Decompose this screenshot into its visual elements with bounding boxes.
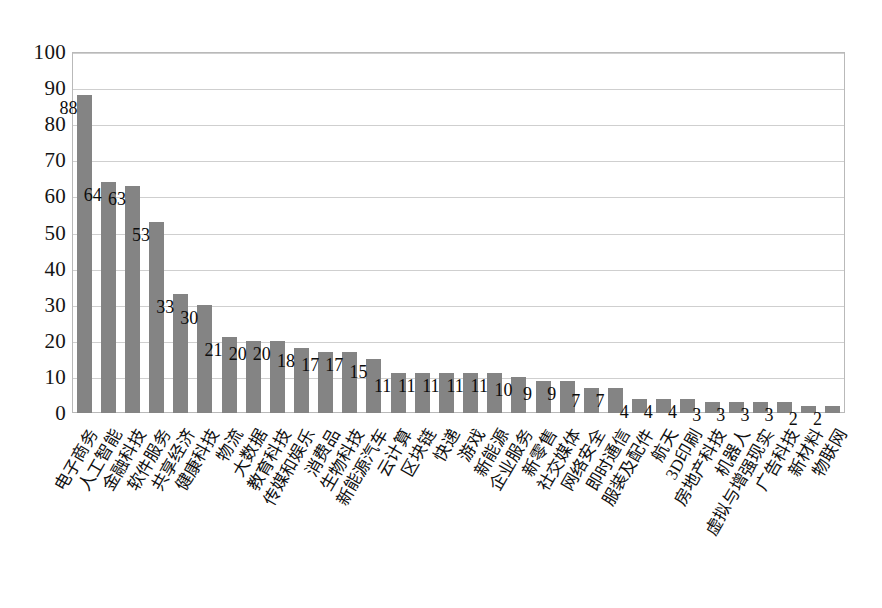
bar-value-label: 20 [227, 345, 249, 363]
y-axis-tick-label: 80 [6, 114, 66, 135]
bar-value-label: 64 [82, 186, 104, 204]
bar [77, 95, 92, 413]
bar-value-label: 18 [275, 352, 297, 370]
y-axis-tick-label: 60 [6, 186, 66, 207]
y-axis-tick-label: 0 [6, 403, 66, 424]
bar-value-label: 63 [106, 190, 128, 208]
category-label-text: 快递 [431, 426, 463, 464]
bar-chart: 0102030405060708090100 88646353333021202… [0, 0, 882, 608]
y-axis-tick-label: 10 [6, 367, 66, 388]
y-axis-tick-label: 90 [6, 78, 66, 99]
y-axis-tick-label: 100 [6, 42, 66, 63]
y-axis-tick-label: 30 [6, 295, 66, 316]
bar-value-label: 33 [154, 298, 176, 316]
category-axis: 电子商务人工智能金融科技软件服务共享经济健康科技物流大数据教育科技传媒和娱乐消费… [72, 413, 845, 608]
y-axis: 0102030405060708090100 [0, 0, 66, 608]
y-axis-tick-label: 70 [6, 150, 66, 171]
bars-layer: 8864635333302120201817171511111111111099… [72, 52, 845, 413]
y-axis-tick-label: 50 [6, 223, 66, 244]
bar-value-label: 53 [130, 226, 152, 244]
bar-value-label: 20 [251, 345, 273, 363]
bar-value-label: 30 [178, 309, 200, 327]
bar-value-label: 88 [58, 99, 80, 117]
y-axis-tick-label: 40 [6, 259, 66, 280]
bar-value-label: 11 [468, 377, 490, 395]
bar-value-label: 21 [203, 341, 225, 359]
y-axis-tick-label: 20 [6, 331, 66, 352]
